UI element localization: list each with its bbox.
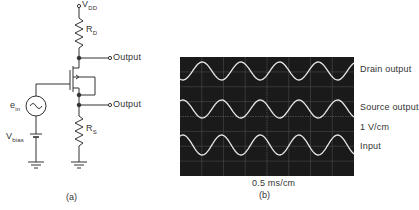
drain-resistor: [75, 18, 83, 48]
circuit-schematic: [26, 4, 112, 168]
source-output-terminal: [108, 103, 111, 106]
ground-icon: [71, 162, 87, 168]
vdd-terminal: [77, 4, 80, 7]
rs-label: RS: [86, 123, 97, 135]
battery-icon: [30, 134, 42, 137]
drain-output-label: Output: [113, 52, 141, 62]
vertical-scale-label: 1 V/cm: [360, 122, 389, 132]
source-output-label: Output: [113, 99, 141, 109]
drain-output-terminal: [108, 56, 111, 59]
source-resistor: [75, 116, 83, 146]
caption-a: (a): [66, 192, 77, 202]
oscilloscope-screen: [180, 57, 354, 176]
vbias-label: Vbias: [6, 131, 24, 143]
trace-label-drain: Drain output: [360, 64, 411, 74]
timebase-label: 0.5 ms/cm: [252, 178, 295, 188]
rd-label: RD: [86, 24, 97, 36]
vdd-label: VDD: [82, 0, 97, 11]
ground-icon: [28, 162, 44, 168]
trace-label-source: Source output: [360, 102, 419, 112]
trace-label-input: Input: [360, 141, 381, 151]
caption-b: (b): [259, 190, 270, 200]
ein-label: ein: [10, 100, 20, 112]
